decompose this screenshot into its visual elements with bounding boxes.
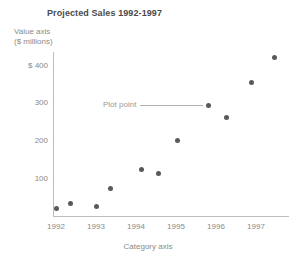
plot-point-annotation-label: Plot point: [103, 100, 136, 109]
plot-point-marker: [54, 206, 59, 211]
plot-point-marker: [139, 167, 144, 172]
plot-point-marker: [206, 103, 211, 108]
plot-point-marker: [272, 55, 277, 60]
plot-point-marker: [108, 186, 113, 191]
chart-figure: Projected Sales 1992-1997 Value axis ($ …: [0, 0, 296, 262]
category-axis-tick-1996: 1996: [196, 222, 236, 231]
category-axis-tick-1993: 1993: [76, 222, 116, 231]
category-axis-ticks: 1992 1993 1994 1995 1996 1997: [0, 0, 296, 262]
plot-point-marker: [249, 80, 254, 85]
category-axis-tick-1992: 1992: [36, 222, 76, 231]
category-axis-tick-1997: 1997: [236, 222, 276, 231]
plot-point-marker: [156, 171, 161, 176]
category-axis-tick-1995: 1995: [156, 222, 196, 231]
plot-point-marker: [224, 115, 229, 120]
plot-point-marker: [175, 138, 180, 143]
category-axis-title: Category axis: [0, 242, 296, 251]
plot-point-annotation-leader-line: [140, 105, 203, 106]
category-axis-tick-1994: 1994: [116, 222, 156, 231]
plot-point-marker: [68, 201, 73, 206]
plot-point-marker: [94, 204, 99, 209]
